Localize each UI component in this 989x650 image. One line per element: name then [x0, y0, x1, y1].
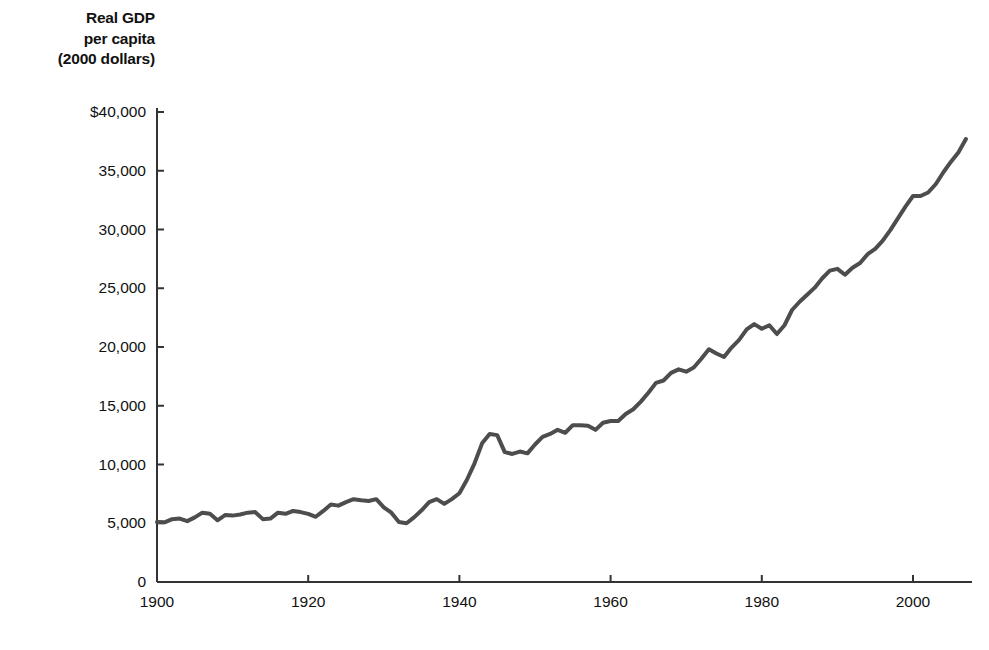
y-axis-tick-label: 35,000	[0, 163, 146, 179]
y-axis-title-line-2: per capita	[0, 29, 155, 50]
y-axis-tick-label: 25,000	[0, 280, 146, 296]
y-axis-tick-label: 15,000	[0, 398, 146, 414]
x-axis-tick-label: 1920	[258, 594, 358, 610]
chart-plot-area	[0, 0, 989, 650]
x-axis-tick-label: 1900	[107, 594, 207, 610]
y-axis-title-line-1: Real GDP	[0, 8, 155, 29]
x-axis-tick-label: 1960	[561, 594, 661, 610]
x-axis-ticks	[157, 575, 913, 582]
y-axis-tick-label: $40,000	[0, 104, 146, 120]
x-axis-tick-label: 2000	[863, 594, 963, 610]
x-axis-tick-label: 1940	[409, 594, 509, 610]
gdp-per-capita-chart: Real GDP per capita (2000 dollars) 05,00…	[0, 0, 989, 650]
y-axis-title-line-3: (2000 dollars)	[0, 49, 155, 70]
y-axis-tick-label: 10,000	[0, 457, 146, 473]
y-axis-tick-label: 5,000	[0, 515, 146, 531]
x-axis-tick-label: 1980	[712, 594, 812, 610]
gdp-data-line	[157, 139, 966, 523]
y-axis-tick-label: 30,000	[0, 222, 146, 238]
y-axis-title: Real GDP per capita (2000 dollars)	[0, 8, 155, 70]
y-axis-ticks	[157, 112, 164, 523]
y-axis-tick-label: 20,000	[0, 339, 146, 355]
y-axis-tick-label: 0	[0, 574, 146, 590]
